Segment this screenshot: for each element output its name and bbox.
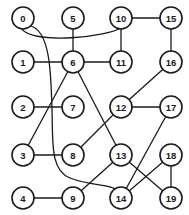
node-label: 14 xyxy=(116,193,127,204)
node-label: 11 xyxy=(116,57,127,68)
node-label: 8 xyxy=(70,150,75,161)
node-label: 1 xyxy=(20,57,26,68)
node-19: 19 xyxy=(160,187,182,209)
node-12: 12 xyxy=(110,96,132,118)
node-label: 0 xyxy=(20,13,25,24)
node-3: 3 xyxy=(12,144,34,166)
node-label: 16 xyxy=(166,57,177,68)
node-7: 7 xyxy=(62,96,84,118)
node-10: 10 xyxy=(110,7,132,29)
node-label: 6 xyxy=(70,57,75,68)
node-label: 3 xyxy=(20,150,25,161)
node-5: 5 xyxy=(62,7,84,29)
node-label: 7 xyxy=(70,102,75,113)
node-2: 2 xyxy=(12,96,34,118)
node-8: 8 xyxy=(62,144,84,166)
node-18: 18 xyxy=(160,144,182,166)
node-label: 19 xyxy=(166,193,177,204)
edge-layer xyxy=(21,18,171,198)
node-label: 13 xyxy=(116,150,127,161)
node-0: 0 xyxy=(12,7,34,29)
node-6: 6 xyxy=(62,51,84,73)
node-label: 9 xyxy=(70,193,75,204)
graph-diagram: 051015161116271217381318491419 xyxy=(0,0,189,215)
node-17: 17 xyxy=(160,96,182,118)
node-1: 1 xyxy=(12,51,34,73)
node-label: 12 xyxy=(116,102,127,113)
node-label: 17 xyxy=(166,102,177,113)
node-4: 4 xyxy=(12,187,34,209)
node-15: 15 xyxy=(160,7,182,29)
node-14: 14 xyxy=(110,187,132,209)
node-label: 5 xyxy=(70,13,76,24)
node-16: 16 xyxy=(160,51,182,73)
node-13: 13 xyxy=(110,144,132,166)
node-label: 2 xyxy=(20,102,25,113)
node-label: 4 xyxy=(20,193,26,204)
node-label: 10 xyxy=(116,13,127,24)
node-9: 9 xyxy=(62,187,84,209)
node-label: 18 xyxy=(166,150,177,161)
node-label: 15 xyxy=(166,13,177,24)
node-11: 11 xyxy=(110,51,132,73)
